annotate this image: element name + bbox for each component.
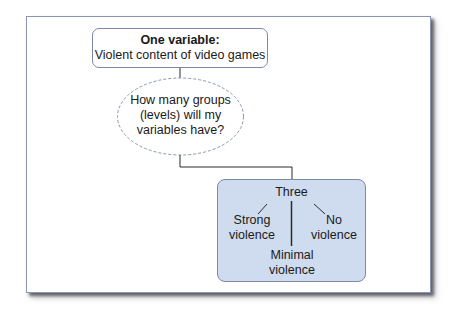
question-line-1: How many groups <box>117 93 244 108</box>
question-line-3: variables have? <box>117 123 244 138</box>
question-text: How many groups (levels) will my variabl… <box>117 93 244 138</box>
variable-box-subtitle: Violent content of video games <box>93 48 267 63</box>
level-strong-line-1: Strong <box>222 213 282 228</box>
level-no-violence: No violence <box>304 213 364 243</box>
variable-box: One variable: Violent content of video g… <box>92 28 268 68</box>
variable-box-title: One variable: <box>93 33 267 48</box>
level-strong-violence: Strong violence <box>222 213 282 243</box>
answer-box: Three Strong violence Minimal violence N… <box>217 179 366 282</box>
level-strong-line-2: violence <box>222 228 282 243</box>
level-minimal-violence: Minimal violence <box>262 248 322 278</box>
question-line-2: (levels) will my <box>117 108 244 123</box>
level-no-line-1: No <box>304 213 364 228</box>
level-no-line-2: violence <box>304 228 364 243</box>
answer-root-label: Three <box>218 185 365 200</box>
level-minimal-line-1: Minimal <box>262 248 322 263</box>
level-minimal-line-2: violence <box>262 263 322 278</box>
